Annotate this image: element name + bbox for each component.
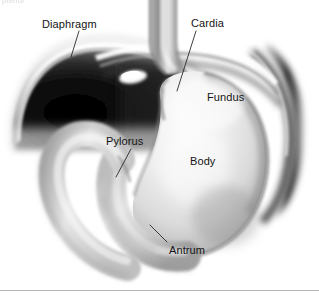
body-inferior-shading <box>192 186 260 246</box>
clipped-caption-text: pterior <box>2 0 25 5</box>
figure-bottom-rule <box>0 290 319 291</box>
label-antrum: Antrum <box>169 244 205 256</box>
label-fundus: Fundus <box>207 91 244 103</box>
label-cardia: Cardia <box>191 17 224 29</box>
fundus-highlight <box>168 78 244 130</box>
label-diaphragm: Diaphragm <box>42 18 97 30</box>
stomach-anatomy-figure: pterior Diaphragm Cardia Fundus Pylorus … <box>0 0 319 299</box>
clipped-caption-strip: pterior <box>0 0 319 7</box>
label-body: Body <box>190 155 215 167</box>
anatomy-illustration <box>0 0 319 299</box>
label-pylorus: Pylorus <box>106 135 143 147</box>
